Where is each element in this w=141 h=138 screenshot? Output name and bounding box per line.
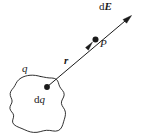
field-point-label: P [100,38,107,49]
charge-element-label: dq [34,94,45,105]
field-point-dot [93,37,99,43]
field-vector-label: dE [99,1,112,12]
charge-element-label-symbol: q [40,93,46,105]
electric-field-diagram: dE P r q dq [0,0,141,138]
r-vector-line [48,19,129,87]
distance-vector-label: r [64,55,68,66]
total-charge-label: q [22,63,28,74]
field-vector-label-symbol: E [105,0,112,12]
charge-element-dot [44,84,50,90]
